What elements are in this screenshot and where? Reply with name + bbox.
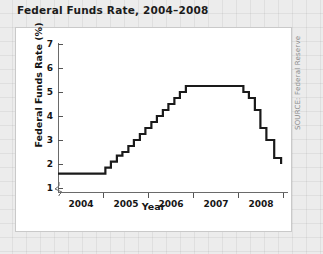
source-note: SOURCE: Federal Reserve [294,20,302,130]
federal-funds-rate-line [58,86,281,174]
chart-title: Federal Funds Rate, 2004–2008 [17,4,209,16]
plot-area: Federal Funds Rate (%) Year 7 6 5 4 3 2 … [15,27,292,232]
series-plot [15,27,292,232]
